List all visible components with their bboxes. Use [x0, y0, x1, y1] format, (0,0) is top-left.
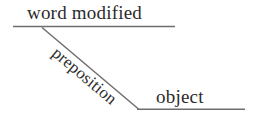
label-object: object	[156, 87, 204, 106]
label-word-modified: word modified	[27, 3, 142, 22]
sentence-diagram: word modified preposition object	[0, 0, 254, 126]
